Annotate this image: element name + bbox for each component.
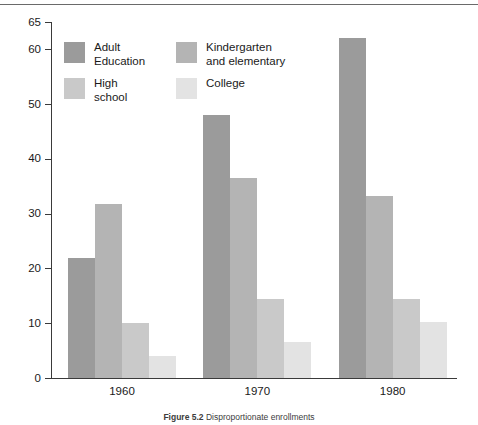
figure-caption: Figure 5.2 Disproportionate enrollments [0,412,478,422]
bar [230,178,257,378]
bar [393,299,420,378]
legend-swatch-high-school [64,78,85,99]
y-axis-tick-mark [45,378,51,379]
x-axis-tick-label: 1980 [353,386,433,398]
figure-caption-body: Disproportionate enrollments [206,412,315,422]
y-axis-tick-label: 0 [35,373,41,385]
y-axis-tick-label: 40 [28,154,41,166]
legend-swatch-college [176,78,197,99]
bar [366,196,393,378]
legend-item-college: College [176,77,245,99]
legend-item-adult-education: Adult Education [64,41,145,68]
bar [203,115,230,378]
y-axis-tick-label: 30 [28,208,41,220]
bar [420,322,447,378]
bar [149,356,176,378]
bar [257,299,284,378]
bar [284,342,311,378]
bar [339,38,366,378]
x-axis-line [51,378,457,379]
legend-swatch-kindergarten-and-elementary [176,42,197,63]
legend-label-high-school: High school [94,77,127,104]
figure-container: 010203040506065 196019701980 Adult Educa… [0,0,478,425]
legend-item-kindergarten-and-elementary: Kindergarten and elementary [176,41,285,68]
y-axis-tick-label: 65 [28,17,41,29]
y-axis-tick-label: 60 [28,44,41,56]
bar [122,323,149,378]
chart-plot-area: 010203040506065 196019701980 Adult Educa… [0,0,478,400]
y-axis-tick-label: 50 [28,99,41,111]
x-axis-tick-label: 1960 [82,386,162,398]
y-axis-tick-label: 10 [28,318,41,330]
legend-label-kindergarten-and-elementary: Kindergarten and elementary [206,41,285,68]
bar [68,258,95,378]
bar-series-group [51,22,457,378]
y-axis-tick-label: 20 [28,263,41,275]
bar [95,204,122,378]
y-axis-tick: 0 [45,378,51,379]
legend-label-adult-education: Adult Education [94,41,145,68]
x-axis-tick-label: 1970 [217,386,297,398]
legend-item-high-school: High school [64,77,127,104]
legend-label-college: College [206,77,245,91]
figure-caption-label: Figure 5.2 [163,412,203,422]
legend-swatch-adult-education [64,42,85,63]
